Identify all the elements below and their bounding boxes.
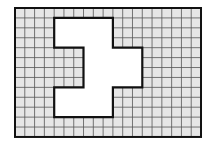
grid-figure [0, 0, 208, 147]
